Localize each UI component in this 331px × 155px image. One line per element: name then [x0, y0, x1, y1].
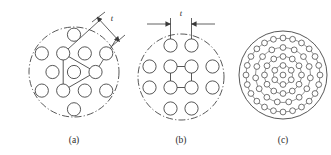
panel-c-caption: (c)	[278, 135, 289, 146]
panel-c-hole	[288, 77, 294, 83]
panel-b-hole	[185, 60, 198, 73]
panel-a-dimension-extension	[92, 12, 105, 22]
panel-c-hole	[301, 54, 307, 60]
panel-c-hole	[288, 67, 294, 73]
panel-c-hole	[312, 91, 318, 97]
panel-c-hole	[316, 63, 322, 69]
figure-canvas: t(a)t(b)(c)	[0, 0, 331, 155]
panel-c-hole	[254, 46, 260, 52]
panel-c-hole	[307, 75, 313, 81]
panel-a-hole	[89, 65, 102, 78]
panel-c-hole	[262, 72, 268, 78]
panel-a-hole	[46, 65, 59, 78]
panel-c-hole	[271, 88, 277, 94]
panel-b-hole	[185, 81, 198, 94]
panel-a-hole	[78, 84, 91, 97]
panel-c-hole	[264, 94, 270, 100]
panel-a-hole	[35, 47, 48, 60]
panel-b-hole	[143, 81, 156, 94]
panel-b-hole	[206, 81, 219, 94]
panel-c-hole	[316, 82, 322, 88]
panel-c-hole	[274, 99, 280, 105]
panel-a-hole	[78, 47, 91, 60]
panel-a-hole	[100, 84, 113, 97]
panel-c-hole	[264, 63, 270, 69]
panel-c-hole	[286, 99, 292, 105]
panel-c-hole	[243, 72, 249, 78]
panel-c-hole	[280, 82, 286, 88]
panel-c-hole	[254, 98, 260, 104]
panel-c-hole	[262, 104, 268, 110]
panel-b-hole	[206, 60, 219, 73]
panel-c-hole	[304, 86, 310, 92]
panel-c-hole	[280, 72, 286, 78]
panel-b-boundary-circle	[138, 34, 224, 120]
panel-c-hole	[306, 64, 312, 70]
panel-a-hole	[67, 28, 80, 41]
panel-b-dimension-label: t	[180, 8, 183, 18]
panel-b-caption: (b)	[175, 135, 186, 146]
panel-c-hole	[290, 108, 296, 114]
panel-a-caption: (a)	[69, 135, 80, 146]
panel-c-hole	[296, 63, 302, 69]
panel-c-hole	[289, 88, 295, 94]
panel-c-hole	[253, 75, 259, 81]
panel-c-hole	[271, 56, 277, 62]
panel-a-dimension-label: t	[111, 13, 114, 23]
panel-c-hole	[272, 67, 278, 73]
panel-a-hole	[35, 84, 48, 97]
panel-b-hole	[143, 60, 156, 73]
panel-c-hole	[317, 72, 323, 78]
panel-c-hole	[312, 54, 318, 60]
panel-c-hole	[290, 36, 296, 42]
panel-c-hole	[269, 47, 275, 53]
panel-c: (c)	[239, 31, 327, 146]
panel-c-hole	[280, 91, 286, 97]
panel-b-hole	[164, 102, 177, 115]
panel-b-hole	[164, 60, 177, 73]
panel-c-hole	[299, 104, 305, 110]
panel-c-hole	[299, 40, 305, 46]
panel-c-hole	[280, 45, 286, 51]
panel-b-hole	[185, 39, 198, 52]
panel-c-hole	[248, 91, 254, 97]
panel-b: t(b)	[138, 8, 224, 146]
panel-c-hole	[291, 47, 297, 53]
panel-c-hole	[296, 81, 302, 87]
panel-c-hole	[306, 98, 312, 104]
panel-a-hole	[57, 47, 70, 60]
panel-a-hole	[57, 84, 70, 97]
panel-c-hole	[256, 86, 262, 92]
panel-c-hole	[264, 81, 270, 87]
panel-c-hole	[248, 54, 254, 60]
panel-a-dimension-line	[97, 17, 120, 42]
panel-b-hole	[164, 39, 177, 52]
panel-c-hole	[280, 54, 286, 60]
panel-a-hole	[67, 103, 80, 116]
tube-layout-figure: t(a)t(b)(c)	[0, 0, 331, 155]
panel-c-hole	[306, 46, 312, 52]
panel-c-hole	[299, 72, 305, 78]
panel-c-hole	[280, 35, 286, 41]
panel-c-hole	[244, 82, 250, 88]
panel-a: t(a)	[29, 12, 125, 146]
panel-c-hole	[296, 94, 302, 100]
panel-c-hole	[244, 63, 250, 69]
panel-c-hole	[280, 63, 286, 69]
panel-c-hole	[262, 40, 268, 46]
panel-b-hole	[164, 81, 177, 94]
panel-c-hole	[271, 36, 277, 42]
panel-c-hole	[254, 64, 260, 70]
panel-c-hole	[289, 56, 295, 62]
panel-c-hole	[280, 109, 286, 115]
panel-b-hole	[185, 102, 198, 115]
panel-c-hole	[272, 77, 278, 83]
panel-a-hole	[67, 65, 80, 78]
panel-a-hole	[100, 47, 113, 60]
panel-c-hole	[271, 108, 277, 114]
panel-c-hole	[260, 54, 266, 60]
